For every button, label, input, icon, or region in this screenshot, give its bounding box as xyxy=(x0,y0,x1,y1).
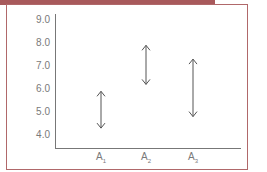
range-arrow xyxy=(189,59,197,117)
range-arrow xyxy=(97,91,105,128)
range-arrows xyxy=(97,45,197,128)
plot-area xyxy=(0,0,267,172)
range-arrow xyxy=(142,45,150,84)
